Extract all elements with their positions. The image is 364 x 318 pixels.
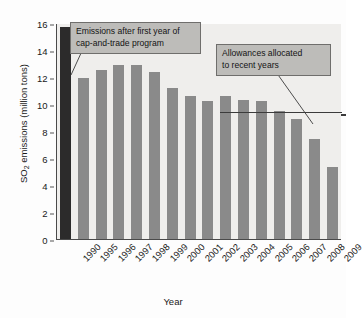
annotation-cap-and-trade: Emissions after first year of cap-and-tr…	[70, 22, 201, 54]
annotation-allowances-line2: to recent years	[222, 60, 325, 72]
annotation-cap-and-trade-line2: cap-and-trade program	[76, 38, 195, 50]
annotation-allowances-line1: Allowances allocated	[222, 48, 325, 60]
annotation-allowances: Allowances allocated to recent years	[216, 44, 331, 76]
annotation-cap-and-trade-line1: Emissions after first year of	[76, 26, 195, 38]
